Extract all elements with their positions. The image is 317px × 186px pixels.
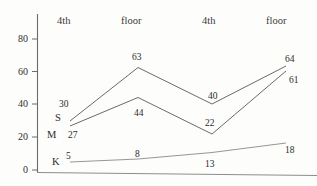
point-label-s-1: 63 <box>132 53 142 63</box>
y-tick-label-80: 80 <box>8 34 28 44</box>
series-label-k: K <box>52 157 60 168</box>
category-label-1: floor <box>121 16 141 27</box>
y-tick-label-40: 40 <box>8 99 28 109</box>
series-label-s: S <box>55 113 61 124</box>
line-chart-plot <box>0 0 317 186</box>
point-label-k-0: 5 <box>66 152 71 162</box>
point-label-s-2: 40 <box>208 92 218 102</box>
point-label-m-0: 27 <box>68 131 78 141</box>
point-label-m-1: 44 <box>134 109 144 119</box>
point-label-k-3: 18 <box>285 146 295 156</box>
series-label-m: M <box>47 130 56 141</box>
series-line-m <box>70 71 286 134</box>
y-tick-label-0: 0 <box>8 165 28 175</box>
chart-container: 4th floor 4th floor 0 20 40 60 80 S M K … <box>0 0 317 186</box>
category-label-3: floor <box>266 16 286 27</box>
series-line-k <box>70 143 286 162</box>
point-label-s-0: 30 <box>59 100 69 110</box>
category-label-2: 4th <box>202 16 215 27</box>
point-label-m-3: 61 <box>289 76 299 86</box>
point-label-k-2: 13 <box>205 160 215 170</box>
point-label-k-1: 8 <box>135 150 140 160</box>
point-label-m-2: 22 <box>205 119 215 129</box>
x-axis-line <box>37 173 317 176</box>
category-label-0: 4th <box>57 16 70 27</box>
y-tick-label-20: 20 <box>8 132 28 142</box>
point-label-s-3: 64 <box>285 55 295 65</box>
y-tick-label-60: 60 <box>8 67 28 77</box>
